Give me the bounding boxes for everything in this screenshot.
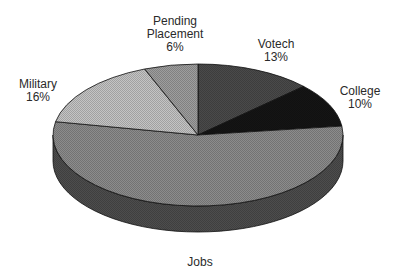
- pie-top-layer: [53, 64, 343, 206]
- slice-label-pending-placement: PendingPlacement6%: [147, 15, 204, 54]
- slice-label-votech: Votech13%: [258, 38, 295, 64]
- slice-label-jobs: Jobs: [187, 256, 212, 269]
- slice-label-percent: 16%: [19, 91, 57, 104]
- slice-label-percent: 6%: [147, 41, 204, 54]
- slice-label-percent: 10%: [340, 98, 381, 111]
- slice-label-name: Jobs: [187, 256, 212, 269]
- slice-label-military: Military16%: [19, 78, 57, 104]
- slice-label-percent: 13%: [258, 51, 295, 64]
- slice-label-college: College10%: [340, 85, 381, 111]
